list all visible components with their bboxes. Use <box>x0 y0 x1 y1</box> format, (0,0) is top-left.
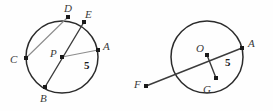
point-label-a_right: A <box>248 38 255 49</box>
point-marker-e <box>82 20 86 24</box>
point-marker-a_right <box>240 46 244 50</box>
point-label-a_left: A <box>103 41 110 52</box>
point-marker-c <box>24 56 28 60</box>
point-marker-o <box>205 53 209 57</box>
point-marker-p <box>60 55 64 59</box>
point-label-p: P <box>50 48 57 59</box>
point-marker-g <box>214 76 218 80</box>
point-label-o: O <box>196 43 204 54</box>
point-marker-f <box>144 84 148 88</box>
point-marker-b <box>43 85 47 89</box>
segments-group <box>26 17 242 87</box>
point-label-d: D <box>64 3 72 14</box>
measure-right: 5 <box>225 57 231 68</box>
geometry-figure: DECAPBOAGF55 <box>0 0 273 111</box>
point-label-g: G <box>203 84 211 95</box>
point-label-b: B <box>40 93 47 104</box>
point-marker-a_left <box>96 48 100 52</box>
point-label-f: F <box>134 79 141 90</box>
radius-PA <box>62 50 98 57</box>
point-label-c: C <box>10 54 17 65</box>
point-label-e: E <box>85 9 92 20</box>
measure-left: 5 <box>84 60 90 71</box>
point-marker-d <box>66 15 70 19</box>
